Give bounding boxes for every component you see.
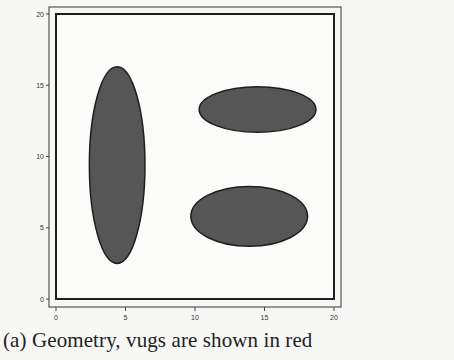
x-tick-label: 0	[54, 314, 58, 321]
x-tick-label: 20	[330, 314, 338, 321]
y-tick-label: 0	[40, 296, 44, 303]
figure-caption: (a) Geometry, vugs are shown in red	[3, 328, 312, 353]
x-tick-label: 15	[261, 314, 269, 321]
x-tick-label: 10	[191, 314, 199, 321]
x-tick-label: 5	[124, 314, 128, 321]
y-axis: 05101520	[36, 11, 49, 303]
y-tick-label: 10	[36, 153, 44, 160]
vug-1-ellipse	[89, 67, 145, 264]
vug-2-ellipse	[199, 87, 316, 133]
vug-3-ellipse	[191, 186, 308, 246]
y-tick-label: 15	[36, 82, 44, 89]
y-tick-label: 20	[36, 11, 44, 18]
y-tick-label: 5	[40, 224, 44, 231]
geometry-figure: 05101520 05101520	[0, 0, 454, 360]
x-axis: 05101520	[54, 307, 338, 321]
